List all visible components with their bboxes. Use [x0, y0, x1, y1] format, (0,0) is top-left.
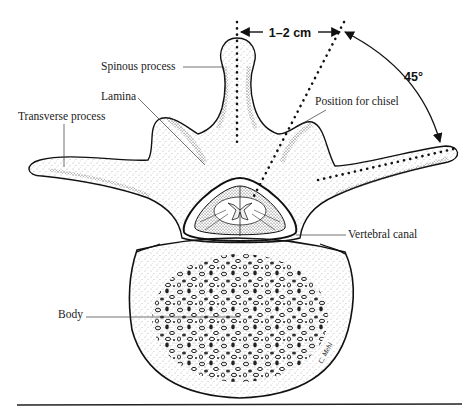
angle-measurement: 45° — [345, 32, 440, 142]
label-body: Body — [58, 308, 83, 321]
vertebral-body — [129, 238, 353, 398]
distance-measurement: 1–2 cm — [241, 26, 340, 40]
angle-label: 45° — [404, 70, 423, 84]
vertebra-illustration: 1–2 cm 45° Spinous process Lamina Transv… — [0, 0, 474, 419]
label-position-for-chisel: Position for chisel — [315, 95, 399, 107]
label-spinous-process: Spinous process — [101, 60, 176, 73]
label-lamina: Lamina — [101, 90, 136, 102]
bottom-rule — [17, 404, 462, 405]
label-vertebral-canal: Vertebral canal — [348, 228, 417, 240]
label-transverse-process: Transverse process — [18, 110, 106, 123]
distance-label: 1–2 cm — [269, 26, 311, 40]
